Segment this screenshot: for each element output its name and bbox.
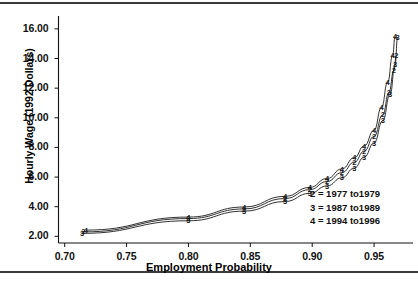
data-point-marker: 4 bbox=[386, 78, 391, 87]
data-point-marker: 4 bbox=[325, 174, 330, 183]
data-point-marker: 3 bbox=[372, 139, 376, 148]
data-point-marker: 3 bbox=[381, 116, 385, 125]
data-point-marker: 3 bbox=[352, 164, 356, 173]
legend-item-2: 2 = 1977 to1979 bbox=[310, 187, 380, 201]
data-point-marker: 3 bbox=[393, 60, 397, 69]
data-point-marker: 3 bbox=[388, 90, 392, 99]
y-axis-tick-label: 2.00 bbox=[7, 229, 49, 241]
data-point-marker: 3 bbox=[362, 153, 366, 162]
data-point-marker: 3 bbox=[340, 173, 344, 182]
plot-area: 2222222222222233333333333333444444444444… bbox=[0, 0, 418, 285]
y-axis-title: Hourly Wage (1992 Dollars) bbox=[23, 31, 35, 201]
y-axis-tick-label: 4.00 bbox=[7, 200, 49, 212]
legend-item-4: 4 = 1994 to1996 bbox=[310, 214, 380, 228]
legend-item-3: 3 = 1987 to1989 bbox=[310, 201, 380, 215]
legend: 2 = 1977 to19793 = 1987 to19894 = 1994 t… bbox=[310, 187, 380, 228]
x-axis-title: Employment Probability bbox=[0, 261, 418, 273]
figure-canvas: 2222222222222233333333333333444444444444… bbox=[0, 0, 418, 285]
